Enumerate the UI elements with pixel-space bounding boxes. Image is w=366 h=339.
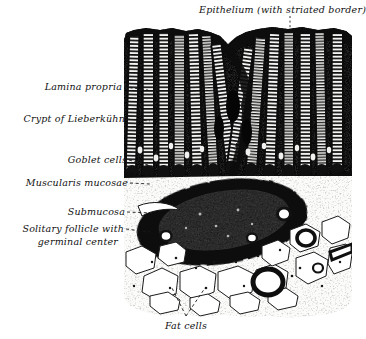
label-solitary-follicle-line1: Solitary follicle with xyxy=(0,223,124,235)
label-solitary-follicle-line2: germinal center xyxy=(0,236,118,248)
label-fat-cells: Fat cells xyxy=(140,320,232,332)
label-goblet-cells: Goblet cells xyxy=(0,154,127,166)
histology-illustration xyxy=(0,0,366,339)
label-crypt-of-lieberkuhn: Crypt of Lieberkühn xyxy=(0,113,125,125)
label-submucosa: Submucosa xyxy=(0,206,125,218)
label-epithelium: Epithelium (with striated border) xyxy=(199,4,366,16)
histology-plate: Epithelium (with striated border) Lamina… xyxy=(0,0,366,339)
label-muscularis-mucosae: Muscularis mucosae xyxy=(0,177,128,189)
label-lamina-propria: Lamina propria xyxy=(0,81,122,93)
submucosa-layer xyxy=(120,167,356,322)
mucosa-layer xyxy=(120,26,356,186)
